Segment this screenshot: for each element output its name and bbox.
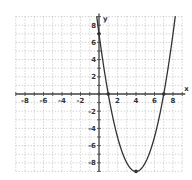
parabola-chart: -8-6-4-224688642-2-4-6-8 x y	[0, 0, 192, 180]
axes	[16, 14, 186, 172]
y-axis-label: y	[103, 15, 108, 23]
x-axis-label: x	[184, 85, 189, 93]
key-point-marker	[162, 92, 166, 96]
key-point-marker	[134, 170, 138, 174]
y-tick-label: 4	[91, 56, 96, 64]
y-tick-label: -2	[88, 108, 96, 116]
x-tick-label: 6	[152, 97, 157, 105]
x-tick-label: 2	[115, 97, 120, 105]
key-point-marker	[106, 92, 110, 96]
y-tick-label: 6	[91, 39, 96, 47]
y-tick-label: 2	[91, 73, 96, 81]
y-tick-label: -8	[88, 159, 96, 167]
x-tick-label: -2	[77, 97, 85, 105]
x-tick-label: 4	[134, 97, 139, 105]
x-tick-label: -6	[40, 97, 48, 105]
y-tick-label: -6	[88, 142, 96, 150]
x-tick-label: 8	[171, 97, 176, 105]
x-tick-label: -8	[21, 97, 29, 105]
x-tick-label: -4	[58, 97, 66, 105]
y-tick-label: 8	[91, 22, 96, 30]
y-tick-label: -4	[88, 125, 96, 133]
key-point-marker	[97, 32, 101, 36]
